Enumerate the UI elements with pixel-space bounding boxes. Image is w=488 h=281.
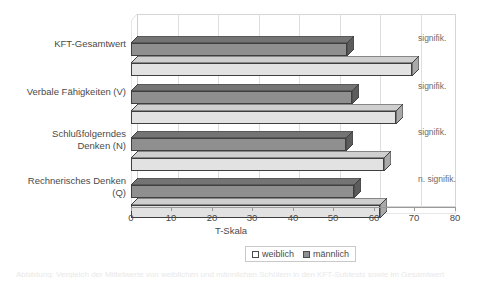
significance-label-kft-gesamtwert: signifik. bbox=[418, 33, 486, 43]
x-tick-70 bbox=[414, 207, 415, 211]
x-tick-label-10: 10 bbox=[156, 212, 186, 223]
category-axis-labels: KFT-Gesamtwert Verbale Fähigkeiten (V) S… bbox=[0, 0, 126, 215]
x-tick-label-50: 50 bbox=[318, 212, 348, 223]
figure-caption: Abbildung: Vergleich der Mittelwerte von… bbox=[16, 270, 472, 278]
x-tick-label-70: 70 bbox=[399, 212, 429, 223]
legend-swatch-icon-maennlich bbox=[303, 251, 310, 258]
x-tick-label-60: 60 bbox=[359, 212, 389, 223]
x-tick-50 bbox=[333, 207, 334, 211]
plot-area bbox=[131, 14, 456, 214]
category-label-verbale-faehigkeiten: Verbale Fähigkeiten (V) bbox=[0, 86, 126, 98]
x-tick-10 bbox=[171, 207, 172, 211]
x-tick-label-40: 40 bbox=[278, 212, 308, 223]
x-tick-80 bbox=[455, 207, 456, 211]
category-label-kft-gesamtwert: KFT-Gesamtwert bbox=[0, 38, 126, 50]
x-tick-60 bbox=[374, 207, 375, 211]
x-tick-30 bbox=[252, 207, 253, 211]
x-tick-20 bbox=[212, 207, 213, 211]
legend-label-weiblich: weiblich bbox=[262, 249, 294, 259]
legend-label-maennlich: männlich bbox=[313, 249, 349, 259]
legend-swatch-icon-weiblich bbox=[252, 251, 259, 258]
category-label-schlussfolgerndes-denken: Schlußfolgerndes Denken (N) bbox=[0, 128, 126, 152]
significance-label-schlussfolgerndes-denken: signifik. bbox=[418, 127, 486, 137]
x-tick-label-30: 30 bbox=[237, 212, 267, 223]
x-tick-label-0: 0 bbox=[116, 212, 146, 223]
chart-legend: weiblich männlich bbox=[245, 246, 356, 262]
legend-item-maennlich[interactable]: männlich bbox=[303, 249, 349, 259]
significance-label-rechnerisches-denken: n. signifik. bbox=[418, 174, 486, 184]
category-label-rechnerisches-denken: Rechnerisches Denken (Q) bbox=[0, 175, 126, 199]
x-tick-0 bbox=[131, 207, 132, 211]
x-tick-40 bbox=[293, 207, 294, 211]
significance-label-verbale-faehigkeiten: signifik. bbox=[418, 81, 486, 91]
x-tick-label-80: 80 bbox=[440, 212, 470, 223]
chart-container: KFT-Gesamtwert Verbale Fähigkeiten (V) S… bbox=[0, 0, 488, 281]
x-axis-title: T-Skala bbox=[171, 225, 291, 236]
x-tick-label-20: 20 bbox=[197, 212, 227, 223]
legend-item-weiblich[interactable]: weiblich bbox=[252, 249, 294, 259]
